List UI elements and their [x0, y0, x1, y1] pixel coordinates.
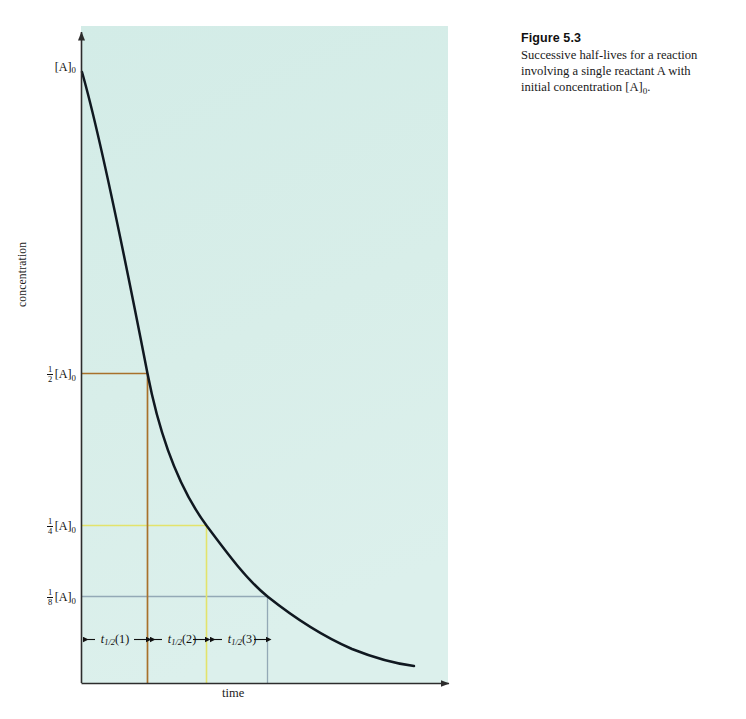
y-tick-half-sub: 0	[72, 373, 76, 383]
y-tick-eighth-sub: 0	[72, 596, 76, 606]
y-tick-eighth-base: [A]	[55, 590, 72, 604]
y-tick-label-eighth: 1 8 [A]0	[0, 588, 76, 606]
y-tick-quarter-base: [A]	[55, 519, 72, 533]
caption-line-1: Successive half-lives for a reaction	[521, 48, 697, 62]
half-life-1-index: (1)	[115, 632, 129, 646]
figure-caption-body: Successive half-lives for a reaction inv…	[521, 47, 721, 99]
figure-caption: Figure 5.3 Successive half-lives for a r…	[521, 31, 721, 99]
x-axis-title: time	[222, 686, 244, 701]
caption-line-2: involving a single reactant A with	[521, 64, 691, 78]
half-life-3-index: (3)	[242, 632, 256, 646]
y-tick-half-base: [A]	[55, 367, 72, 381]
fraction-one-eighth: 1 8	[47, 588, 53, 606]
half-life-1-subscript: 1/2	[104, 637, 115, 647]
fraction-denominator: 4	[47, 527, 53, 536]
caption-line-3-pre: initial concentration [A]	[521, 80, 643, 94]
y-tick-initial-sub: 0	[72, 65, 76, 75]
caption-line-3-post: .	[647, 80, 650, 94]
half-life-2-label: t1/2(2)	[163, 632, 201, 647]
fraction-one-quarter: 1 4	[47, 517, 53, 535]
fraction-one-half: 1 2	[47, 365, 53, 383]
half-life-1-label: t1/2(1)	[96, 632, 134, 647]
y-tick-label-quarter: 1 4 [A]0	[0, 517, 76, 535]
figure-caption-title: Figure 5.3	[521, 31, 721, 45]
fraction-denominator: 2	[47, 375, 53, 384]
half-life-decay-chart	[0, 0, 500, 719]
half-life-2-subscript: 1/2	[171, 637, 182, 647]
y-tick-initial-base: [A]	[55, 60, 72, 74]
half-life-2-index: (2)	[182, 632, 196, 646]
y-axis-title: concentration	[16, 187, 28, 307]
y-tick-quarter-sub: 0	[72, 525, 76, 535]
plot-background	[81, 26, 448, 683]
y-tick-label-initial: [A]0	[0, 60, 76, 75]
half-life-3-label: t1/2(3)	[223, 632, 261, 647]
fraction-denominator: 8	[47, 598, 53, 607]
y-tick-label-half: 1 2 [A]0	[0, 365, 76, 383]
half-life-3-subscript: 1/2	[231, 637, 242, 647]
figure-container: concentration time [A]0 1 2 [A]0 1 4 [A]…	[0, 0, 500, 719]
